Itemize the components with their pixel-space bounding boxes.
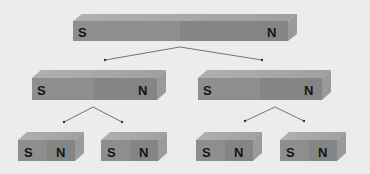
north-pole-label: N — [138, 83, 147, 98]
south-pole-label: S — [203, 83, 212, 98]
magnet-bottom-2: S N — [101, 132, 167, 161]
north-pole-label: N — [56, 145, 65, 160]
south-half — [73, 21, 180, 41]
top-face — [32, 70, 166, 78]
north-pole-label: N — [234, 145, 243, 160]
north-pole-label: N — [318, 145, 327, 160]
south-pole-label: S — [78, 25, 87, 40]
top-face — [196, 132, 262, 140]
south-pole-label: S — [107, 145, 116, 160]
north-half — [94, 78, 157, 100]
north-pole-label: N — [139, 145, 148, 160]
south-pole-label: S — [24, 145, 33, 160]
magnet-mid-right: S N — [198, 70, 331, 100]
connector-mid-left — [64, 107, 122, 122]
magnet-bottom-4: S N — [280, 132, 346, 161]
magnet-bottom-3: S N — [196, 132, 262, 161]
top-face — [18, 132, 84, 140]
connector-mid-right — [245, 107, 304, 121]
north-pole-label: N — [267, 25, 276, 40]
magnet-mid-left: S N — [32, 70, 166, 100]
top-face — [73, 14, 297, 21]
south-pole-label: S — [286, 145, 295, 160]
magnet-bottom-1: S N — [18, 132, 84, 161]
magnet-top: S N — [73, 14, 297, 41]
top-face — [280, 132, 346, 140]
south-pole-label: S — [202, 145, 211, 160]
top-face — [101, 132, 167, 140]
south-pole-label: S — [37, 83, 46, 98]
connector-top — [105, 47, 262, 60]
north-pole-label: N — [304, 83, 313, 98]
top-face — [198, 70, 331, 78]
magnet-splitting-diagram: S N S N S N S N S N — [0, 0, 370, 174]
